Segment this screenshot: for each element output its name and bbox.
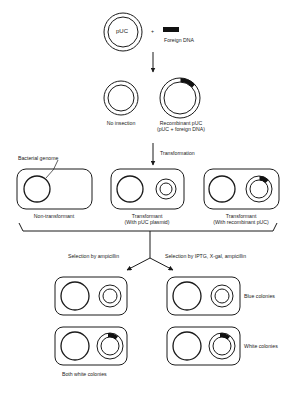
white-colonies-label: White colonies — [244, 343, 278, 349]
foreign-dna-label: Foreign DNA — [164, 37, 194, 43]
cell-transformant-puc — [111, 169, 184, 209]
plus-sign: + — [151, 28, 154, 34]
no-insertion-label: No insection — [107, 120, 136, 126]
bacterial-genome-label: Bacterial genome — [18, 155, 58, 161]
result-right-white-cell — [167, 327, 240, 365]
recombinant-plasmid — [160, 78, 200, 118]
cell-transformant-recombinant — [204, 169, 279, 209]
cell-1-label: Non-transformant — [34, 213, 74, 219]
result-left-recombinant-cell — [55, 327, 127, 365]
result-left-puc-cell — [55, 277, 127, 315]
foreign-dna-fragment — [163, 27, 179, 32]
cell-3-sublabel: (With recombinant pUC) — [213, 219, 269, 225]
selection-right-label: Selection by IPTG, X-gal, ampicillin — [165, 253, 246, 259]
selection-left-label: Selection by ampicillin — [68, 253, 119, 259]
cell-2-sublabel: (With pUC plasmid) — [125, 219, 170, 225]
transformation-step-label: Transformation — [160, 150, 195, 156]
no-insertion-plasmid — [104, 81, 138, 115]
blue-colonies-label: Blue colonies — [244, 293, 275, 299]
recombinant-sublabel: (pUC + foreign DNA) — [157, 126, 205, 132]
puc-label: pUC — [116, 28, 128, 34]
diagram-canvas — [0, 0, 298, 393]
result-right-blue-cell — [167, 277, 240, 315]
both-white-caption: Both white colonies — [62, 371, 107, 377]
cell-non-transformant — [17, 169, 92, 209]
